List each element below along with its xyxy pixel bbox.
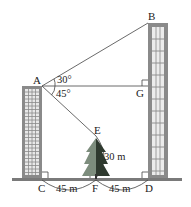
right-angle-C (42, 172, 48, 178)
right-angle-G (142, 80, 148, 86)
distance-CF-label: 45 m (56, 183, 77, 194)
angle-arc-45 (52, 86, 56, 95)
angle-30-label: 30° (57, 74, 72, 85)
label-E: E (94, 124, 101, 136)
label-A: A (33, 74, 41, 86)
angle-arc-30 (54, 79, 55, 86)
label-D: D (145, 182, 153, 194)
label-B: B (148, 10, 155, 22)
tree-height-label: 30 m (104, 151, 125, 162)
label-F: F (92, 182, 98, 194)
right-building (148, 23, 168, 178)
left-building (22, 86, 42, 178)
distance-FD-label: 45 m (109, 183, 130, 194)
label-C: C (38, 182, 45, 194)
label-G: G (136, 87, 144, 99)
trigonometry-diagram: A B G E C F D 30° 45° 30 m 45 m 45 m (0, 0, 191, 207)
right-angle-D (142, 172, 148, 178)
angle-45-label: 45° (56, 88, 71, 99)
